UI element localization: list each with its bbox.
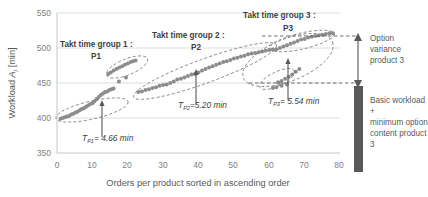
x-tick-50: 50: [228, 160, 238, 170]
ellipse-p2: [129, 34, 280, 109]
x-tick-30: 30: [158, 160, 168, 170]
data-point: [246, 52, 250, 56]
data-point: [218, 61, 222, 65]
series-0: [59, 87, 116, 121]
data-point: [239, 54, 243, 58]
data-point: [175, 78, 179, 82]
group-1-sub: P1: [91, 52, 101, 61]
x-tick-70: 70: [299, 160, 309, 170]
data-point: [124, 75, 128, 79]
takt-label-p2: TP2=5.20 min: [178, 100, 227, 111]
takt-label-p2-value: =5.20 min: [190, 100, 227, 110]
data-point: [161, 83, 165, 87]
takt-arrowhead-p3: [285, 58, 290, 64]
takt-label-p1-subscript: P1: [87, 138, 94, 144]
data-point: [147, 87, 151, 91]
y-axis-title-unit: [min]: [7, 47, 17, 67]
data-point: [228, 58, 232, 62]
data-point: [136, 90, 140, 94]
y-tick-labels: 550 500 450 400 350: [37, 8, 51, 158]
data-point: [285, 43, 289, 47]
data-point: [310, 35, 314, 39]
data-point: [327, 31, 331, 35]
data-point: [200, 68, 204, 72]
data-point: [288, 42, 292, 46]
side-bars: [354, 33, 363, 172]
data-point: [274, 47, 278, 51]
data-point: [283, 77, 287, 81]
takt-value-labels: TP1= 4.66 min TP2=5.20 min TP3= 5.54 min: [82, 96, 320, 144]
data-point: [168, 81, 172, 85]
data-point: [214, 63, 218, 67]
data-point: [297, 67, 301, 71]
basic-workload-line-3: content product 3: [370, 128, 428, 150]
data-point: [151, 86, 155, 90]
x-tick-10: 10: [87, 160, 97, 170]
y-tick-400: 400: [37, 113, 51, 123]
data-point: [250, 52, 254, 56]
data-point: [276, 80, 280, 84]
data-point: [189, 73, 193, 77]
basic-workload-line-1: Basic workload +: [370, 95, 428, 117]
data-point: [186, 74, 190, 78]
y-axis-title: Workload Aj [min]: [7, 47, 18, 118]
data-point: [143, 88, 147, 92]
ellipse-p3-lower: [257, 64, 297, 93]
data-point: [172, 80, 176, 84]
data-point: [179, 77, 183, 81]
series-3: [136, 47, 274, 94]
data-point: [225, 59, 229, 63]
group-1-title: Takt time group 1 :: [60, 40, 133, 49]
data-point: [264, 49, 268, 53]
takt-label-p1-value: = 4.66 min: [94, 133, 134, 143]
data-point: [232, 57, 236, 61]
data-point: [134, 59, 138, 63]
data-point: [281, 45, 285, 49]
data-point: [280, 79, 284, 83]
x-tick-40: 40: [193, 160, 203, 170]
y-tick-350: 350: [37, 148, 51, 158]
data-point: [211, 64, 215, 68]
data-point: [207, 66, 211, 70]
basic-workload-label: Basic workload + minimum option content …: [370, 95, 428, 150]
data-point: [117, 80, 121, 84]
x-tick-80: 80: [334, 160, 344, 170]
option-variance-line-3: product 3: [370, 55, 428, 66]
basic-workload-bar: [354, 86, 363, 172]
x-tick-20: 20: [122, 160, 132, 170]
x-tick-0: 0: [55, 160, 60, 170]
data-point: [235, 56, 239, 60]
data-point: [154, 85, 158, 89]
data-point: [303, 37, 307, 41]
y-tick-550: 550: [37, 8, 51, 18]
data-point: [299, 38, 303, 42]
data-point: [296, 39, 300, 43]
data-point: [221, 60, 225, 64]
data-point: [292, 40, 296, 44]
option-variance-arrowhead-top: [354, 33, 362, 41]
basic-workload-line-2: minimum option: [370, 117, 428, 128]
option-variance-line-1: Option: [370, 33, 428, 44]
data-point: [140, 89, 144, 93]
y-tick-450: 450: [37, 78, 51, 88]
ellipse-p1-lower: [54, 93, 130, 127]
data-point: [242, 54, 246, 58]
data-point: [158, 84, 162, 88]
x-axis-title: Orders per product sorted in ascending o…: [106, 178, 289, 188]
y-tick-500: 500: [37, 43, 51, 53]
data-point: [204, 67, 208, 71]
data-point: [287, 75, 291, 79]
option-variance-line-2: variance: [370, 44, 428, 55]
x-tick-60: 60: [264, 160, 274, 170]
y-axis-title-main: Workload: [7, 80, 17, 119]
data-point: [165, 82, 169, 86]
x-tick-labels: 0 10 20 30 40 50 60 70 80: [55, 160, 344, 170]
chart-canvas: 550 500 450 400 350 0 10 20 30 40 50 60 …: [0, 0, 428, 197]
takt-label-p3: TP3= 5.54 min: [268, 96, 320, 107]
y-axis-title-symbol: A: [7, 71, 17, 78]
data-point: [278, 46, 282, 50]
chart-figure: 550 500 450 400 350 0 10 20 30 40 50 60 …: [0, 0, 428, 197]
data-point: [112, 87, 116, 91]
takt-label-p3-value: = 5.54 min: [280, 96, 320, 106]
takt-label-p1: TP1= 4.66 min: [82, 133, 134, 144]
